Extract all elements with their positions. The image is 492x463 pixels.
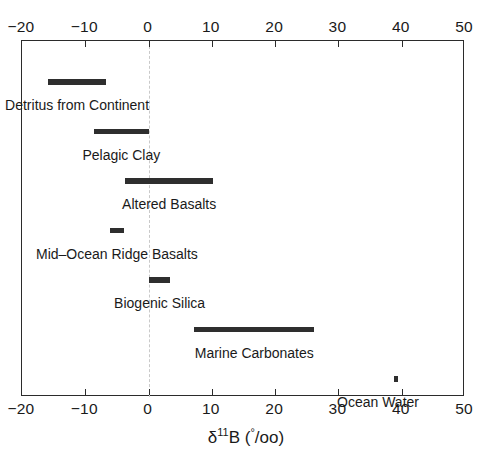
x-axis-title: δ11B (°/oo) <box>0 429 492 446</box>
tick-mark-bottom-10 <box>212 389 213 395</box>
tick-mark-bottom--10 <box>85 389 86 395</box>
range-bar <box>48 79 106 85</box>
tick-label-bottom-0: 0 <box>118 401 178 417</box>
delta-symbol: δ <box>208 428 217 447</box>
tick-mark-top-10 <box>212 41 213 47</box>
tick-label-bottom-10: 10 <box>181 401 241 417</box>
tick-mark-bottom-0 <box>149 389 150 395</box>
tick-label-top-20: 20 <box>244 19 304 35</box>
tick-label-bottom-40: 40 <box>371 401 431 417</box>
series-label: Altered Basalts <box>122 197 216 211</box>
series-label: Marine Carbonates <box>195 346 314 360</box>
range-bar <box>110 228 124 234</box>
tick-label-bottom--10: −10 <box>54 401 114 417</box>
tick-label-bottom--20: −20 <box>0 401 51 417</box>
series-label: Mid–Ocean Ridge Basalts <box>36 247 198 261</box>
range-bar <box>125 178 213 184</box>
plot-area: Detritus from ContinentPelagic ClayAlter… <box>21 40 464 396</box>
tick-mark-top-20 <box>275 41 276 47</box>
isotope-mass-superscript: 11 <box>217 426 228 438</box>
tick-label-top-40: 40 <box>371 19 431 35</box>
series-label: Detritus from Continent <box>5 98 149 112</box>
tick-label-top-50: 50 <box>434 19 492 35</box>
range-bar <box>94 129 148 135</box>
tick-label-top--20: −20 <box>0 19 51 35</box>
range-bar <box>149 277 170 283</box>
tick-mark-top-40 <box>402 41 403 47</box>
tick-label-bottom-20: 20 <box>244 401 304 417</box>
permil-slash-oo: /oo <box>255 428 279 447</box>
unit-open-paren: ( <box>240 428 250 447</box>
tick-label-top-0: 0 <box>118 19 178 35</box>
range-bar <box>394 376 398 382</box>
tick-mark-top-30 <box>338 41 339 47</box>
boron-isotope-range-chart: −20−1001020304050 Detritus from Continen… <box>0 0 492 463</box>
tick-label-top--10: −10 <box>54 19 114 35</box>
tick-mark-top-0 <box>149 41 150 47</box>
zero-reference-line <box>149 41 150 397</box>
tick-mark-bottom-20 <box>275 389 276 395</box>
tick-mark-top--10 <box>85 41 86 47</box>
series-label: Biogenic Silica <box>114 296 205 310</box>
tick-label-top-30: 30 <box>307 19 367 35</box>
tick-label-bottom-50: 50 <box>434 401 492 417</box>
element-symbol: B <box>229 428 240 447</box>
unit-close-paren: ) <box>279 428 285 447</box>
range-bar <box>194 327 314 333</box>
tick-label-top-10: 10 <box>181 19 241 35</box>
series-label: Pelagic Clay <box>82 148 160 162</box>
tick-label-bottom-30: 30 <box>307 401 367 417</box>
